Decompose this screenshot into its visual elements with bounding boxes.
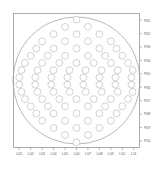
- x-axis-tick-label: L08: [96, 152, 102, 156]
- x-axis-tick-label: L03: [39, 152, 45, 156]
- tube-position: [125, 96, 132, 103]
- tube-position: [85, 132, 92, 139]
- tube-position: [129, 67, 136, 74]
- tube-position: [113, 45, 120, 52]
- tube-position: [27, 52, 34, 59]
- y-axis-tick-label: P09: [144, 126, 150, 130]
- tube-position: [112, 74, 119, 81]
- tube-position: [16, 81, 23, 88]
- x-axis-tick-label: L01: [16, 152, 22, 156]
- figure-container: L01L02L03L04L05L06L07L08L09L10L11 P01P02…: [0, 0, 168, 169]
- y-axis-tick-label: P02: [144, 32, 150, 36]
- tube-position: [114, 67, 121, 74]
- tube-position: [39, 38, 46, 45]
- tube-position: [64, 74, 71, 81]
- tube-position: [62, 38, 69, 45]
- tube-position: [85, 117, 92, 124]
- tube-position: [80, 81, 87, 88]
- tube-position: [16, 74, 23, 81]
- tube-position: [64, 81, 71, 88]
- y-axis-tick-label: P01: [144, 19, 150, 23]
- tube-position: [32, 81, 39, 88]
- x-axis-tick-label: L05: [62, 152, 68, 156]
- tube-position: [39, 96, 46, 103]
- tube-position: [73, 124, 80, 131]
- y-axis-tick-label: P07: [144, 99, 150, 103]
- y-axis-tick-label: P05: [144, 72, 150, 76]
- tube-position: [119, 52, 126, 59]
- tube-position: [96, 74, 103, 81]
- tube-position: [73, 60, 80, 67]
- tube-position: [112, 81, 119, 88]
- tube-position: [50, 67, 57, 74]
- tube-position: [62, 132, 69, 139]
- tube-position: [48, 74, 55, 81]
- tube-position: [107, 117, 114, 124]
- tube-position: [128, 74, 135, 81]
- x-axis-tick-label: L09: [108, 152, 114, 156]
- y-axis-tick-label: P04: [144, 59, 150, 63]
- tube-position: [85, 103, 92, 110]
- tube-position: [50, 124, 57, 131]
- tube-position: [33, 110, 40, 117]
- tube-position: [96, 81, 103, 88]
- plot-canvas: L01L02L03L04L05L06L07L08L09L10L11 P01P02…: [0, 0, 168, 169]
- tube-position: [82, 67, 89, 74]
- tube-position: [56, 96, 63, 103]
- y-axis-tick-label: P10: [144, 139, 150, 143]
- tube-position: [39, 117, 46, 124]
- tube-position: [85, 23, 92, 30]
- tube-position: [85, 38, 92, 45]
- tube-position: [22, 96, 29, 103]
- tube-position: [44, 103, 51, 110]
- tube-position: [114, 88, 121, 95]
- tube-position: [98, 88, 105, 95]
- y-axis-tick-label: P08: [144, 112, 150, 116]
- tube-position: [98, 67, 105, 74]
- tube-position: [96, 31, 103, 38]
- x-axis-tick-label: L07: [85, 152, 91, 156]
- tube-position: [39, 60, 46, 67]
- tube-position: [62, 117, 69, 124]
- y-axis-tick-label: P03: [144, 45, 150, 49]
- tube-position: [27, 103, 34, 110]
- tube-position: [107, 60, 114, 67]
- x-axis-tick-label: L04: [51, 152, 57, 156]
- tube-position: [73, 16, 80, 23]
- tube-position: [33, 45, 40, 52]
- tube-position: [18, 88, 25, 95]
- tube-position: [102, 52, 109, 59]
- tube-position: [56, 60, 63, 67]
- tube-position: [73, 31, 80, 38]
- y-axis-tick-label: P06: [144, 86, 150, 90]
- tube-position: [48, 81, 55, 88]
- tube-position: [96, 45, 103, 52]
- tube-position: [18, 67, 25, 74]
- x-axis-tick-label: L10: [119, 152, 125, 156]
- tube-position: [73, 139, 80, 146]
- tube-position: [66, 88, 73, 95]
- tube-position: [90, 96, 97, 103]
- tube-position: [102, 103, 109, 110]
- tube-position: [50, 45, 57, 52]
- tube-position: [129, 88, 136, 95]
- x-axis-tick-label: L02: [28, 152, 34, 156]
- tube-position: [62, 23, 69, 30]
- tube-position: [80, 74, 87, 81]
- tube-position: [44, 52, 51, 59]
- tube-position: [73, 45, 80, 52]
- tube-position: [32, 74, 39, 81]
- tube-position: [113, 110, 120, 117]
- x-axis-tick-label: L06: [74, 152, 80, 156]
- tube-position: [66, 67, 73, 74]
- tube-position: [62, 103, 69, 110]
- tube-position: [107, 38, 114, 45]
- tube-position: [96, 110, 103, 117]
- tube-position: [82, 88, 89, 95]
- tube-position: [62, 52, 69, 59]
- tube-position: [107, 96, 114, 103]
- tube-position: [73, 110, 80, 117]
- tube-position: [50, 31, 57, 38]
- tube-position: [73, 96, 80, 103]
- tube-position: [50, 88, 57, 95]
